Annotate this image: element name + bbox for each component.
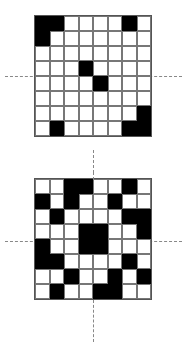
empty-cell — [50, 224, 65, 239]
filled-cell — [79, 179, 94, 194]
empty-cell — [108, 31, 123, 46]
empty-cell — [137, 179, 152, 194]
empty-cell — [50, 179, 65, 194]
filled-cell — [50, 16, 65, 31]
filled-cell — [93, 239, 108, 254]
bottom-vertical-axis-line — [93, 300, 94, 342]
empty-cell — [108, 46, 123, 61]
empty-cell — [137, 61, 152, 76]
empty-cell — [64, 209, 79, 224]
empty-cell — [122, 284, 137, 299]
empty-cell — [93, 269, 108, 284]
empty-cell — [50, 31, 65, 46]
filled-cell — [93, 224, 108, 239]
empty-cell — [64, 91, 79, 106]
empty-cell — [93, 194, 108, 209]
top-grid — [34, 15, 152, 137]
filled-cell — [35, 239, 50, 254]
filled-cell — [137, 106, 152, 121]
filled-cell — [122, 209, 137, 224]
empty-cell — [64, 106, 79, 121]
empty-cell — [108, 209, 123, 224]
filled-cell — [79, 61, 94, 76]
empty-cell — [122, 61, 137, 76]
empty-cell — [137, 16, 152, 31]
empty-cell — [64, 16, 79, 31]
empty-cell — [93, 254, 108, 269]
empty-cell — [137, 91, 152, 106]
filled-cell — [93, 76, 108, 91]
filled-cell — [122, 179, 137, 194]
empty-cell — [79, 194, 94, 209]
filled-cell — [93, 284, 108, 299]
filled-cell — [79, 224, 94, 239]
empty-cell — [35, 284, 50, 299]
empty-cell — [93, 179, 108, 194]
filled-cell — [50, 254, 65, 269]
empty-cell — [64, 46, 79, 61]
filled-cell — [35, 31, 50, 46]
empty-cell — [108, 179, 123, 194]
empty-cell — [79, 121, 94, 136]
empty-cell — [79, 254, 94, 269]
empty-cell — [108, 76, 123, 91]
empty-cell — [50, 269, 65, 284]
empty-cell — [79, 76, 94, 91]
empty-cell — [64, 239, 79, 254]
empty-cell — [108, 106, 123, 121]
middle-vertical-axis-line — [93, 150, 94, 173]
empty-cell — [122, 46, 137, 61]
filled-cell — [137, 224, 152, 239]
filled-cell — [50, 209, 65, 224]
filled-cell — [108, 284, 123, 299]
empty-cell — [50, 106, 65, 121]
filled-cell — [137, 121, 152, 136]
empty-cell — [108, 239, 123, 254]
filled-cell — [122, 121, 137, 136]
empty-cell — [35, 121, 50, 136]
filled-cell — [108, 194, 123, 209]
empty-cell — [79, 209, 94, 224]
filled-cell — [137, 209, 152, 224]
empty-cell — [35, 224, 50, 239]
filled-cell — [79, 239, 94, 254]
empty-cell — [93, 46, 108, 61]
empty-cell — [35, 106, 50, 121]
filled-cell — [35, 16, 50, 31]
empty-cell — [93, 91, 108, 106]
empty-cell — [35, 91, 50, 106]
empty-cell — [79, 91, 94, 106]
empty-cell — [79, 284, 94, 299]
filled-cell — [50, 121, 65, 136]
empty-cell — [35, 76, 50, 91]
empty-cell — [93, 16, 108, 31]
empty-cell — [50, 239, 65, 254]
empty-cell — [64, 254, 79, 269]
empty-cell — [64, 61, 79, 76]
empty-cell — [137, 76, 152, 91]
empty-cell — [79, 46, 94, 61]
empty-cell — [79, 31, 94, 46]
empty-cell — [137, 31, 152, 46]
filled-cell — [64, 194, 79, 209]
empty-cell — [122, 91, 137, 106]
filled-cell — [35, 194, 50, 209]
empty-cell — [93, 61, 108, 76]
empty-cell — [122, 76, 137, 91]
empty-cell — [137, 254, 152, 269]
empty-cell — [122, 31, 137, 46]
empty-cell — [50, 61, 65, 76]
empty-cell — [64, 284, 79, 299]
filled-cell — [35, 254, 50, 269]
filled-cell — [108, 269, 123, 284]
empty-cell — [64, 31, 79, 46]
empty-cell — [64, 76, 79, 91]
empty-cell — [50, 91, 65, 106]
empty-cell — [93, 106, 108, 121]
empty-cell — [35, 46, 50, 61]
empty-cell — [122, 269, 137, 284]
empty-cell — [137, 46, 152, 61]
empty-cell — [50, 76, 65, 91]
filled-cell — [137, 269, 152, 284]
empty-cell — [93, 121, 108, 136]
